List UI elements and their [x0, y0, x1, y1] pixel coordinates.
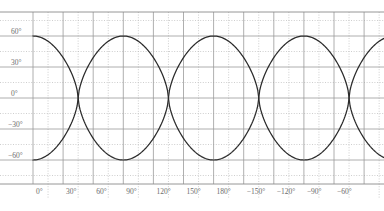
- x-tick-label: −90°: [307, 187, 322, 196]
- x-tick-label: 60°: [96, 187, 107, 196]
- x-tick-label: 90°: [126, 187, 137, 196]
- x-tick-label: −120°: [277, 187, 295, 196]
- y-tick-label: 0°: [11, 89, 18, 98]
- y-tick-label: −60°: [8, 151, 23, 160]
- x-tick-label: 180°: [217, 187, 231, 196]
- minor-gridlines: [0, 12, 384, 198]
- x-tick-label: −60°: [337, 187, 352, 196]
- major-gridlines: [0, 12, 384, 184]
- x-tick-label: −150°: [247, 187, 265, 196]
- x-tick-label: 120°: [156, 187, 170, 196]
- x-tick-label: 150°: [187, 187, 201, 196]
- x-tick-label: 30°: [66, 187, 77, 196]
- y-tick-label: 30°: [11, 58, 22, 67]
- x-tick-label: 0°: [36, 187, 43, 196]
- chart-container: 60°30°0°−30°−60° 0°30°60°90°120°150°180°…: [0, 0, 384, 211]
- y-tick-label: −30°: [8, 120, 23, 129]
- angular-periodic-line-chart: [0, 0, 384, 211]
- y-tick-label: 60°: [11, 27, 22, 36]
